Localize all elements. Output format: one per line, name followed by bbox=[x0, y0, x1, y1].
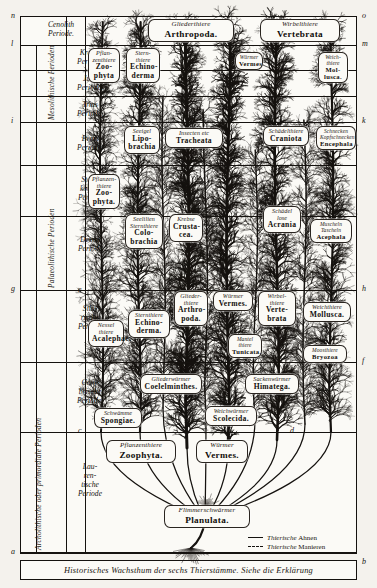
legend-solid-line-icon bbox=[248, 537, 263, 538]
taxon-plaque-spongiae: SchwämmeSpongiae. bbox=[94, 408, 142, 428]
edge-letter-e: e bbox=[78, 285, 82, 294]
taxon-plaque-tracheata: Insecten etcTracheata bbox=[165, 128, 223, 148]
taxon-plaque-bryozoa: MoosthiereBryozoa bbox=[303, 345, 347, 363]
taxon-plaque-echinoderma-top: Stern-thiereEchino-derma bbox=[126, 48, 160, 83]
sidebar-inner-rule bbox=[66, 16, 67, 553]
taxon-plaque-zoophyta-root: PflanzenthiereZoophyta. bbox=[106, 440, 176, 463]
taxon-plaque-acephala: MuschelnTaschelnAcephala bbox=[310, 219, 352, 243]
period-label-laurentische: Lau-ren-tischePeriode bbox=[68, 462, 112, 498]
edge-letter-i: i bbox=[11, 116, 13, 125]
stratum-rule-perm bbox=[20, 165, 357, 166]
edge-letter-k: k bbox=[362, 116, 366, 125]
plate-background: n o l m i k g h e f c d a b Mesolithisch… bbox=[0, 0, 377, 588]
stratum-rule-c-d bbox=[20, 432, 357, 433]
stratum-rule-a-b bbox=[20, 553, 357, 554]
edge-letter-f: f bbox=[362, 356, 364, 365]
taxon-plaque-mollusca-2: WeichthiereMollusca. bbox=[303, 302, 351, 322]
legend-row-manieren: Thierische Manieren bbox=[248, 542, 325, 551]
edge-letter-o: o bbox=[362, 11, 366, 20]
taxon-plaque-tunicata: MantelthiereTunicata. bbox=[228, 334, 262, 358]
taxon-plaque-zoophyta-2: Pflanzen-thiereZoo-phyta. bbox=[88, 174, 120, 209]
taxon-plaque-acrania: SchädelloseAcrania bbox=[263, 206, 301, 233]
taxon-plaque-arthropoda-2: Glieder-thiereArthro-poda. bbox=[174, 291, 208, 326]
edge-letter-d: d bbox=[290, 426, 294, 435]
legend-label-ahnen: Thierische Ahnen bbox=[267, 534, 317, 542]
edge-letter-c: c bbox=[78, 426, 82, 435]
period-label-cenolith: CenolithPeriode. bbox=[38, 20, 84, 38]
taxon-plaque-colobrachia: SeelilienSternthiereColo-brachia bbox=[125, 214, 163, 249]
stratum-rule-kreide bbox=[20, 70, 357, 71]
legend-dashed-line-icon bbox=[248, 546, 263, 547]
taxon-plaque-zoophyta-top: Pflan-zenthiereZoo-phyta bbox=[88, 48, 120, 83]
edge-letter-h: h bbox=[362, 284, 366, 293]
edge-letter-g: g bbox=[11, 284, 15, 293]
taxon-plaque-vermes-2: WürmerVermes. bbox=[213, 291, 253, 311]
taxon-plaque-coelelminthes: GliederwürmerCoelelminthes. bbox=[140, 374, 202, 394]
stratum-rule-jura bbox=[20, 96, 357, 97]
era-label-archolithische: Archolithische oder primordiale Perioden bbox=[34, 418, 43, 550]
taxon-plaque-arthropoda-top: GliederthiereArthropoda. bbox=[148, 19, 234, 42]
period-label-trias: TriasPeriode. bbox=[68, 100, 112, 118]
edge-letter-b: b bbox=[362, 557, 366, 566]
edge-letter-a: a bbox=[11, 547, 15, 556]
edge-letter-m: m bbox=[362, 39, 368, 48]
legend: Thierische Ahnen Thierische Manieren bbox=[248, 533, 325, 551]
taxon-plaque-craniota: SchädelthiereCraniota bbox=[263, 126, 309, 146]
taxon-plaque-mollusca-top: Weich-thiereMol-lusca. bbox=[318, 52, 348, 83]
edge-letter-n: n bbox=[11, 11, 15, 20]
taxon-plaque-planulata: FlimmerschwärmerPlanulata. bbox=[164, 505, 250, 528]
legend-label-manieren: Thierische Manieren bbox=[267, 543, 325, 551]
taxon-plaque-vermes-root: WürmerVermes. bbox=[196, 440, 248, 463]
period-label-cambrische: Cam-brischePeriode. bbox=[68, 378, 112, 405]
taxon-plaque-vermes-top: WürmerVermes bbox=[235, 52, 263, 70]
taxon-plaque-himatega: SackenwürmerHimatega. bbox=[245, 374, 299, 394]
period-label-devon: DevonPeriode bbox=[68, 235, 112, 253]
stratum-rule-i-k bbox=[20, 122, 357, 123]
taxon-plaque-encephala: SchneckenKopfschneckenEncephala bbox=[316, 126, 356, 150]
taxon-plaque-scolecida: WeichwürmerScolecida. bbox=[205, 406, 257, 426]
taxon-plaque-vertebrata-top: WirbelthiereVertebrata bbox=[260, 19, 340, 42]
taxon-plaque-lipobrachia: SeeigelLipo-brachia bbox=[124, 126, 160, 154]
taxon-plaque-acalephae: NesselthiereAcalephae. bbox=[88, 320, 124, 347]
period-label-perm: PermPeriode. bbox=[68, 134, 112, 152]
taxon-plaque-crustacea: KrebseCrusta-cea. bbox=[169, 214, 203, 242]
taxon-plaque-vertebrata-2: Wirbel-thiereVerte-brata bbox=[258, 291, 296, 326]
stratum-rule-l-m bbox=[20, 45, 357, 46]
legend-row-ahnen: Thierische Ahnen bbox=[248, 533, 325, 542]
era-label-palaeolithische: Palaeolithische Perioden bbox=[47, 208, 56, 288]
taxon-plaque-echinoderma-2: SternthiereEchino-derma. bbox=[128, 310, 170, 338]
era-label-mesolithische: Mesolithische Perioden bbox=[47, 46, 56, 120]
stratum-rule-n-o bbox=[20, 16, 357, 17]
edge-letter-l: l bbox=[11, 39, 13, 48]
